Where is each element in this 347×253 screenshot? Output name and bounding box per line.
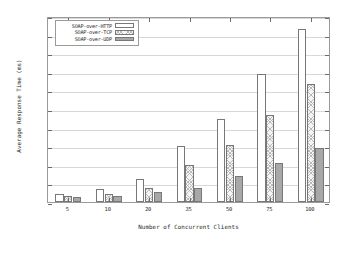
bar: [177, 146, 185, 202]
x-axis-tick-label: 75: [266, 206, 272, 212]
x-axis-tick-label: 20: [145, 206, 151, 212]
bar: [113, 196, 121, 203]
bar-group: [136, 16, 162, 202]
y-axis-tick: [48, 74, 52, 75]
x-axis-tick-label: 35: [185, 206, 191, 212]
bar-group: [217, 16, 243, 202]
bar: [266, 115, 274, 202]
bar: [257, 74, 265, 202]
y-axis-tick: [325, 130, 329, 131]
bar: [185, 165, 193, 202]
x-axis-tick: [190, 18, 191, 22]
bar: [315, 148, 323, 202]
bar: [154, 192, 162, 202]
y-axis-tick: [48, 18, 52, 19]
y-axis-tick: [48, 37, 52, 38]
y-axis-tick: [325, 204, 329, 205]
y-axis-tick: [325, 111, 329, 112]
y-axis-tick: [325, 92, 329, 93]
y-axis-tick: [48, 111, 52, 112]
bar: [226, 145, 234, 202]
y-axis-tick: [325, 37, 329, 38]
x-axis-tick: [149, 18, 150, 22]
y-axis-tick: [325, 148, 329, 149]
chart-legend: SOAP-over-HTTPSOAP-over-TCPSOAP-over-UDP: [55, 20, 139, 46]
legend-swatch: [115, 30, 134, 35]
y-axis-tick: [48, 92, 52, 93]
y-axis-tick: [325, 185, 329, 186]
x-axis-tick: [311, 18, 312, 22]
legend-item: SOAP-over-HTTP: [58, 23, 136, 29]
legend-label: SOAP-over-UDP: [58, 36, 115, 42]
y-axis-tick: [325, 74, 329, 75]
y-axis-tick: [48, 148, 52, 149]
x-axis-tick: [230, 198, 231, 202]
bar: [217, 119, 225, 202]
bar: [55, 194, 63, 202]
bar: [307, 84, 315, 202]
x-axis-tick-label: 100: [305, 206, 314, 212]
bar-group: [298, 16, 324, 202]
bar: [298, 29, 306, 202]
y-axis-tick: [48, 185, 52, 186]
legend-item: SOAP-over-TCP: [58, 29, 136, 35]
x-axis-tick-label: 50: [226, 206, 232, 212]
y-axis-tick: [325, 167, 329, 168]
x-axis-tick: [190, 198, 191, 202]
x-axis-tick: [311, 198, 312, 202]
legend-label: SOAP-over-HTTP: [58, 23, 115, 29]
bar: [235, 176, 243, 202]
x-axis-tick: [230, 18, 231, 22]
y-axis-tick: [48, 204, 52, 205]
y-axis-tick: [325, 55, 329, 56]
legend-item: SOAP-over-UDP: [58, 36, 136, 42]
bar-group: [257, 16, 283, 202]
x-axis-tick: [270, 18, 271, 22]
legend-swatch: [115, 23, 134, 28]
x-axis-tick: [68, 198, 69, 202]
bar-group: [177, 16, 203, 202]
bar: [194, 188, 202, 202]
y-axis-tick: [48, 130, 52, 131]
x-axis-tick: [109, 198, 110, 202]
x-axis-tick: [149, 198, 150, 202]
bar: [136, 179, 144, 202]
y-axis-tick: [48, 167, 52, 168]
x-axis-tick-label: 10: [105, 206, 111, 212]
legend-swatch: [115, 37, 134, 42]
legend-label: SOAP-over-TCP: [58, 29, 115, 35]
x-axis-tick-label: 5: [66, 206, 69, 212]
chart-figure: 0100020003000400050006000700080009000100…: [0, 0, 347, 253]
x-axis-title: Number of Concurrent Clients: [47, 224, 330, 230]
y-axis-tick: [325, 18, 329, 19]
bar: [73, 197, 81, 202]
x-axis-tick: [270, 198, 271, 202]
x-axis-tick-labels: 51020355075100: [47, 206, 330, 216]
y-axis-tick: [48, 55, 52, 56]
bar: [275, 163, 283, 202]
y-axis-title: Average Response Time (ms): [16, 36, 22, 176]
bar: [96, 189, 104, 202]
